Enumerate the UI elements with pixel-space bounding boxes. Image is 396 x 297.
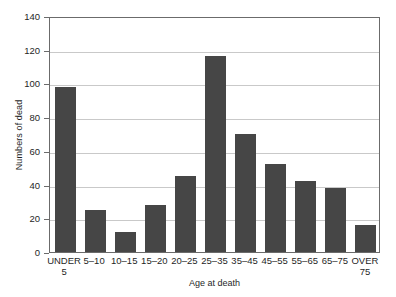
bar-series: [50, 18, 379, 252]
y-axis-tick-label: 120: [0, 46, 40, 56]
bar: [55, 87, 76, 252]
y-axis-tick-mark: [44, 253, 49, 254]
x-axis-title: Age at death: [49, 278, 380, 288]
bar: [175, 176, 196, 252]
bar: [145, 205, 166, 252]
y-axis-tick-label: 140: [0, 12, 40, 22]
y-axis-tick-label: 40: [0, 181, 40, 191]
bar: [205, 56, 226, 252]
plot-area: [49, 17, 380, 253]
y-axis-tick-labels: 020406080100120140: [0, 0, 46, 297]
bar: [265, 164, 286, 252]
y-axis-tick-label: 80: [0, 113, 40, 123]
bar: [295, 181, 316, 252]
bar: [355, 225, 376, 252]
bar: [325, 188, 346, 252]
y-axis-tick-label: 60: [0, 147, 40, 157]
y-axis-tick-label: 20: [0, 214, 40, 224]
bar-chart-figure: Numbers of dead 020406080100120140 UNDER…: [0, 0, 396, 297]
y-axis-tick-label: 0: [0, 248, 40, 258]
bar: [85, 210, 106, 252]
bar: [235, 134, 256, 252]
y-axis-tick-label: 100: [0, 79, 40, 89]
bar: [115, 232, 136, 252]
x-axis-tick-label: OVER 75: [342, 255, 388, 277]
